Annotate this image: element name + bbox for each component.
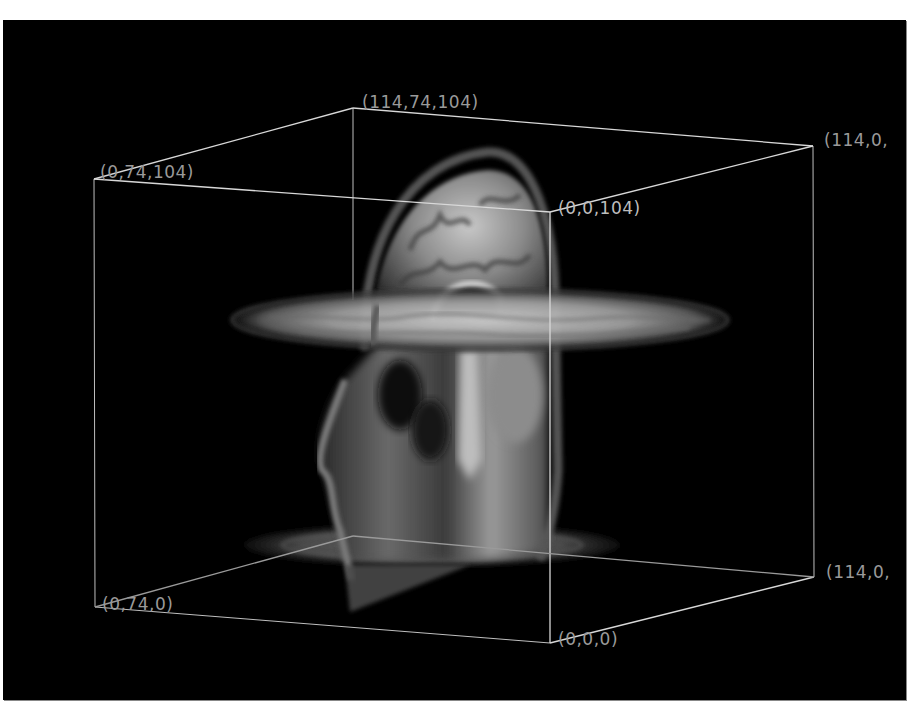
volume-scene[interactable]: (114,74,104) (0,74,104) (114,0, (0,0,104… (3, 20, 906, 700)
axial-slice-upper (232, 290, 728, 350)
label-top-back: (114,74,104) (362, 92, 479, 112)
label-top-front: (0,0,104) (558, 198, 641, 218)
label-bottom-left: (0,74,0) (102, 594, 173, 614)
label-top-right: (114,0, (824, 130, 888, 150)
render-viewport[interactable]: (114,74,104) (0,74,104) (114,0, (0,0,104… (3, 20, 906, 700)
label-bottom-front: (0,0,0) (558, 629, 618, 649)
label-top-left: (0,74,104) (100, 162, 194, 182)
label-bottom-right: (114,0, (826, 562, 890, 582)
